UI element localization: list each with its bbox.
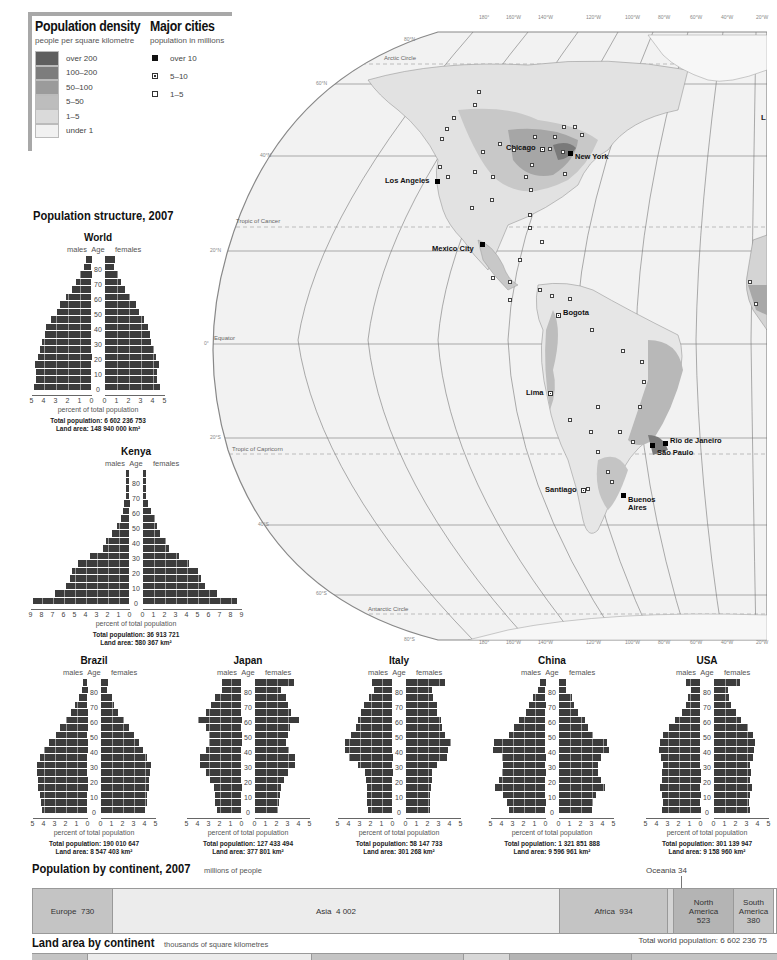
gridline: [134, 679, 135, 814]
male-bar: [345, 739, 392, 746]
town-marker[interactable]: [563, 172, 567, 176]
town-marker[interactable]: [470, 206, 474, 210]
city-label[interactable]: São Paulo: [657, 448, 693, 457]
city-label[interactable]: Rio de Janeiro: [670, 436, 722, 445]
city-label[interactable]: Chicago: [506, 143, 536, 152]
town-marker[interactable]: [481, 150, 485, 154]
female-bar: [559, 739, 607, 746]
male-bar: [71, 709, 88, 716]
town-marker[interactable]: [446, 175, 450, 179]
town-marker[interactable]: [512, 148, 516, 152]
town-marker[interactable]: [550, 294, 554, 298]
town-marker[interactable]: [518, 258, 522, 262]
city-marker[interactable]: [480, 242, 485, 247]
continent-segment[interactable]: NorthAmerica523: [674, 889, 734, 933]
town-marker[interactable]: [640, 360, 644, 364]
town-marker[interactable]: [596, 405, 600, 409]
female-bar: [101, 754, 147, 761]
city-marker[interactable]: [540, 147, 545, 152]
town-marker[interactable]: [553, 135, 557, 139]
town-marker[interactable]: [621, 349, 625, 353]
town-marker[interactable]: [631, 440, 635, 444]
city-class-label: 5–10: [170, 72, 188, 81]
town-marker[interactable]: [528, 213, 532, 217]
total-population: Total population: 36 913 721: [66, 631, 206, 638]
town-marker[interactable]: [491, 175, 495, 179]
city-label[interactable]: Lima: [526, 388, 544, 397]
city-marker[interactable]: [663, 441, 668, 446]
town-marker[interactable]: [508, 280, 512, 284]
population-structure-title: Population structure, 2007: [33, 208, 173, 223]
city-label[interactable]: Buenos Aires: [628, 496, 658, 512]
town-marker[interactable]: [445, 127, 449, 131]
town-marker[interactable]: [473, 170, 477, 174]
city-marker[interactable]: [621, 493, 626, 498]
city-marker[interactable]: [650, 443, 655, 448]
continent-segment[interactable]: Africa 934: [560, 889, 668, 933]
town-marker[interactable]: [562, 125, 566, 129]
city-label[interactable]: New York: [575, 152, 609, 161]
town-marker[interactable]: [473, 103, 477, 107]
land-area: Land area: 377 801 km²: [178, 848, 318, 855]
city-marker[interactable]: [568, 151, 573, 156]
town-marker[interactable]: [533, 135, 537, 139]
town-marker[interactable]: [438, 165, 442, 169]
town-marker[interactable]: [529, 188, 533, 192]
town-marker[interactable]: [590, 328, 594, 332]
town-marker[interactable]: [586, 487, 590, 491]
density-legend-title: Population density: [35, 18, 140, 34]
town-marker[interactable]: [580, 133, 584, 137]
town-marker[interactable]: [491, 276, 495, 280]
male-bar: [206, 769, 241, 776]
town-marker[interactable]: [524, 175, 528, 179]
city-label[interactable]: Santiago: [545, 485, 577, 494]
land-area-subtitle: thousands of square kilometres: [164, 940, 268, 949]
town-marker[interactable]: [540, 240, 544, 244]
axis-tick-label: 5: [765, 820, 773, 827]
town-marker[interactable]: [618, 430, 622, 434]
town-marker[interactable]: [573, 125, 577, 129]
city-label[interactable]: Mexico City: [432, 244, 474, 253]
city-marker[interactable]: [548, 391, 553, 396]
city-label[interactable]: Bogota: [563, 308, 589, 317]
town-marker[interactable]: [452, 116, 456, 120]
continent-segment[interactable]: SouthAmerica380: [734, 889, 774, 933]
continent-segment[interactable]: Asia 4 002: [113, 889, 560, 933]
town-marker[interactable]: [589, 430, 593, 434]
town-marker[interactable]: [490, 198, 494, 202]
town-marker[interactable]: [568, 297, 572, 301]
gridline: [513, 679, 514, 814]
town-marker[interactable]: [530, 163, 534, 167]
town-marker[interactable]: [548, 147, 552, 151]
town-marker[interactable]: [508, 298, 512, 302]
town-marker[interactable]: [596, 450, 600, 454]
gridline: [55, 679, 56, 814]
density-class-label: 100–200: [66, 68, 97, 77]
town-marker[interactable]: [440, 137, 444, 141]
town-marker[interactable]: [606, 470, 610, 474]
city-marker[interactable]: [556, 313, 561, 318]
town-marker[interactable]: [638, 405, 642, 409]
town-marker[interactable]: [754, 302, 758, 306]
age-header: Age: [544, 668, 560, 677]
town-marker[interactable]: [498, 142, 502, 146]
gridline: [53, 470, 54, 605]
town-marker[interactable]: [561, 150, 565, 154]
axis-tick-label: 1: [531, 820, 539, 827]
town-marker[interactable]: [538, 288, 542, 292]
town-marker[interactable]: [748, 280, 752, 284]
city-marker[interactable]: [435, 179, 440, 184]
male-bar: [514, 724, 546, 731]
town-marker[interactable]: [528, 226, 532, 230]
age-tick-label: 80: [92, 266, 104, 273]
male-bar: [209, 739, 242, 746]
town-marker[interactable]: [477, 90, 481, 94]
world-map[interactable]: 180°160°W140°W120°W100°W80°W60°W40°W20°W…: [208, 10, 767, 650]
town-marker[interactable]: [610, 480, 614, 484]
town-marker[interactable]: [642, 380, 646, 384]
axis-tick-label: 1: [686, 820, 694, 827]
city-label[interactable]: Los Angeles: [385, 176, 429, 185]
continent-segment[interactable]: Europe 730: [33, 889, 113, 933]
town-marker[interactable]: [568, 418, 572, 422]
gridline: [220, 470, 221, 605]
